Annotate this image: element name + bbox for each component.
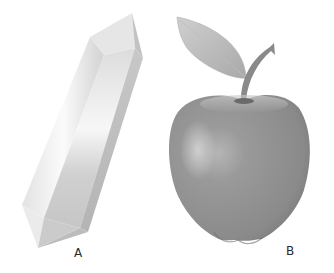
crystal-icon [22, 13, 143, 248]
illustration-canvas: A B [0, 0, 334, 273]
panel-label-a: A [74, 246, 83, 260]
figure: A B A B [0, 0, 334, 273]
apple-icon [169, 17, 310, 244]
panel-label-b: B [286, 244, 294, 258]
